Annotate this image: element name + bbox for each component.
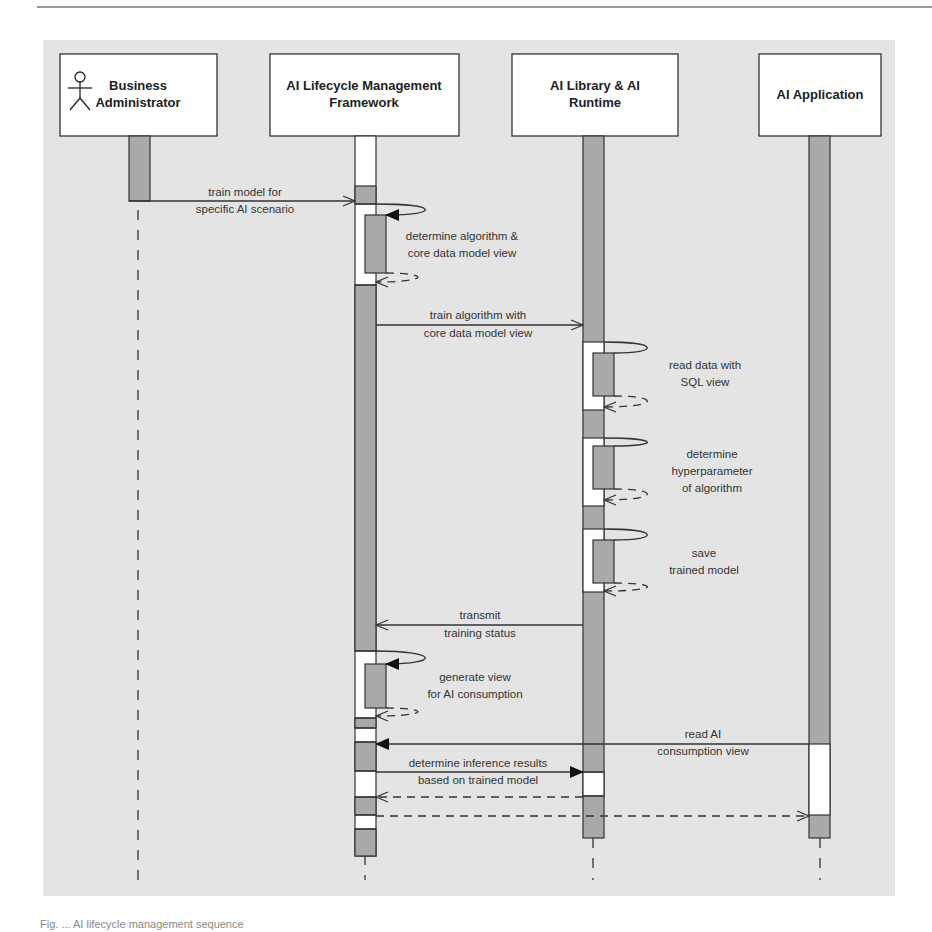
participant-ai-application: AI Application bbox=[759, 54, 881, 136]
participant-title: Business bbox=[109, 78, 167, 93]
svg-text:save: save bbox=[692, 547, 716, 559]
svg-text:read AI: read AI bbox=[685, 728, 721, 740]
participant-title: AI Application bbox=[777, 87, 864, 102]
svg-text:core data model view: core data model view bbox=[408, 247, 517, 259]
svg-text:hyperparameter: hyperparameter bbox=[671, 465, 752, 477]
svg-text:based on trained model: based on trained model bbox=[418, 774, 538, 786]
participant-ai-lifecycle-management-framework: AI Lifecycle Management Framework bbox=[270, 54, 459, 136]
sequence-diagram: Business Administrator AI Lifecycle Mana… bbox=[0, 0, 932, 932]
participant-title: Administrator bbox=[95, 95, 180, 110]
svg-text:for AI consumption: for AI consumption bbox=[427, 688, 522, 700]
svg-text:train algorithm with: train algorithm with bbox=[430, 309, 527, 321]
svg-text:specific AI scenario: specific AI scenario bbox=[196, 203, 294, 215]
activation-bar bbox=[129, 136, 150, 201]
svg-text:transmit: transmit bbox=[460, 609, 502, 621]
svg-text:determine algorithm &: determine algorithm & bbox=[406, 230, 519, 242]
svg-text:train model for: train model for bbox=[208, 186, 282, 198]
figure-caption: Fig. ... AI lifecycle management sequenc… bbox=[40, 918, 244, 930]
svg-text:determine: determine bbox=[686, 448, 737, 460]
svg-text:consumption view: consumption view bbox=[657, 745, 749, 757]
svg-text:determine inference results: determine inference results bbox=[409, 757, 548, 769]
participant-title: Runtime bbox=[569, 95, 621, 110]
svg-text:core data model view: core data model view bbox=[424, 327, 533, 339]
participant-title: AI Library & AI bbox=[550, 78, 640, 93]
participant-title: Framework bbox=[329, 95, 399, 110]
svg-text:trained model: trained model bbox=[669, 564, 739, 576]
svg-text:read data with: read data with bbox=[669, 359, 741, 371]
participant-business-administrator: Business Administrator bbox=[60, 54, 217, 136]
participant-ai-library-ai-runtime: AI Library & AI Runtime bbox=[512, 54, 678, 136]
activation-ai-application bbox=[809, 136, 830, 838]
svg-text:of algorithm: of algorithm bbox=[682, 482, 742, 494]
svg-text:SQL view: SQL view bbox=[681, 376, 730, 388]
svg-text:generate view: generate view bbox=[439, 671, 511, 683]
svg-text:training status: training status bbox=[444, 627, 516, 639]
participant-title: AI Lifecycle Management bbox=[286, 78, 442, 93]
